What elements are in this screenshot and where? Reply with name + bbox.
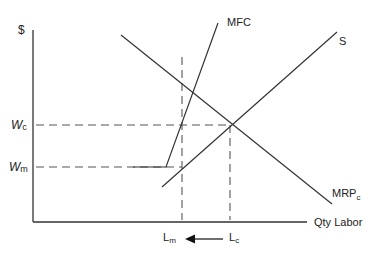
- monopsony-diagram: $ Qty Labor MFC S MRPc Wc Wm Lm Lc: [0, 0, 376, 264]
- wc-label: Wc: [11, 118, 27, 132]
- lc-label: Lc: [229, 231, 239, 245]
- lm-label: Lm: [163, 231, 176, 245]
- supply-label: S: [339, 35, 346, 47]
- mfc-curve: [133, 23, 218, 167]
- supply-curve: [162, 32, 337, 187]
- mfc-label: MFC: [227, 16, 251, 28]
- x-axis-label: Qty Labor: [314, 216, 363, 228]
- wm-label: Wm: [9, 160, 28, 174]
- left-arrow-icon: [185, 235, 223, 244]
- mrp-label: MRPc: [332, 187, 360, 202]
- mrp-curve: [121, 35, 332, 204]
- y-axis-label: $: [18, 23, 25, 37]
